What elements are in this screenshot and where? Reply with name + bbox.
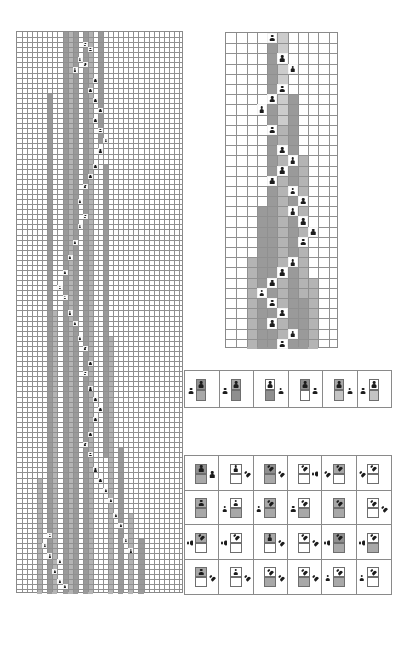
- grid-line-horizontal: [17, 300, 182, 301]
- pawn-icon: [187, 540, 193, 546]
- legend-tile-top: [230, 567, 242, 577]
- pawn-icon: [89, 433, 92, 436]
- legend-side-pawn: [277, 388, 284, 395]
- pawn-icon: [94, 119, 97, 122]
- agent-marker: [128, 548, 133, 553]
- legend-tile-bottom: [333, 543, 345, 553]
- grid-line-horizontal: [17, 442, 182, 443]
- grid-line-horizontal: [17, 361, 182, 362]
- grid-line-horizontal: [17, 310, 182, 311]
- pawn-icon: [89, 362, 92, 365]
- pawn-icon: [198, 465, 204, 471]
- legend-side-pawn: [256, 506, 262, 512]
- pawn-icon: [233, 465, 239, 471]
- grid-line-horizontal: [17, 427, 182, 428]
- legend-tile-bottom: [367, 577, 379, 587]
- pawn-icon: [301, 381, 308, 388]
- grid-canvas: [17, 32, 182, 592]
- grid-line-horizontal: [226, 237, 337, 238]
- pawn-icon: [277, 470, 286, 479]
- grid-line-horizontal: [17, 154, 182, 155]
- grid-line-horizontal: [226, 247, 337, 248]
- legend-tile-bottom: [195, 508, 207, 518]
- agent-marker: [93, 417, 98, 422]
- grid-line-horizontal: [226, 196, 337, 197]
- pawn-icon: [290, 157, 296, 163]
- legend-side-pawn: [209, 471, 215, 477]
- pawn-icon: [242, 574, 251, 583]
- legend-matrix-cell: [288, 491, 322, 526]
- pawn-icon: [290, 259, 296, 265]
- legend-tile-top: [298, 567, 310, 577]
- pawn-icon: [198, 500, 204, 506]
- pawn-icon: [279, 167, 285, 173]
- grid-line-horizontal: [17, 589, 182, 590]
- pawn-icon: [300, 239, 306, 245]
- grid-line-horizontal: [17, 169, 182, 170]
- legend-matrix-cell: [185, 525, 219, 560]
- legend-side-pawn: [278, 471, 284, 477]
- legend-tile-top: [264, 464, 276, 474]
- legend-tile-bottom: [300, 390, 310, 401]
- pawn-icon: [99, 129, 102, 132]
- pawn-icon: [290, 188, 296, 194]
- grid-line-horizontal: [226, 94, 337, 95]
- agent-marker: [98, 148, 103, 153]
- grid-line-horizontal: [17, 437, 182, 438]
- agent-marker: [63, 584, 68, 589]
- legend-strip-panel: [184, 370, 392, 408]
- grid-line-horizontal: [17, 62, 182, 63]
- grid-line-horizontal: [17, 194, 182, 195]
- legend-tile-bottom: [230, 577, 242, 587]
- legend-side-pawn: [346, 388, 353, 395]
- legend-tile-bottom: [298, 577, 310, 587]
- grid-line-horizontal: [226, 64, 337, 65]
- agent-marker: [83, 346, 88, 351]
- grid-line-horizontal: [17, 143, 182, 144]
- grid-line-horizontal: [17, 316, 182, 317]
- pawn-icon: [221, 506, 227, 512]
- legend-tile-bottom: [230, 474, 242, 484]
- grid-line-horizontal: [17, 260, 182, 261]
- agent-marker: [288, 257, 298, 267]
- agent-marker: [83, 184, 88, 189]
- agent-marker: [257, 288, 267, 298]
- grid-line-horizontal: [17, 402, 182, 403]
- legend-tile-top: [334, 379, 344, 390]
- legend-tile-top: [298, 464, 310, 474]
- legend-tile-top: [264, 567, 276, 577]
- grid-line-horizontal: [226, 216, 337, 217]
- legend-tile-top: [369, 379, 379, 390]
- pawn-icon: [94, 418, 97, 421]
- grid-line-horizontal: [17, 432, 182, 433]
- pawn-icon: [300, 533, 309, 542]
- legend-matrix-cell: [185, 560, 219, 595]
- agent-marker: [98, 128, 103, 133]
- agent-marker: [57, 559, 62, 564]
- grid-line-horizontal: [17, 209, 182, 210]
- legend-tile-top: [333, 567, 345, 577]
- agent-marker: [83, 442, 88, 447]
- pawn-icon: [124, 539, 127, 542]
- grid-line-horizontal: [17, 285, 182, 286]
- agent-marker: [277, 53, 287, 63]
- legend-side-pawn: [312, 388, 319, 395]
- pawn-icon: [290, 331, 296, 337]
- pawn-icon: [300, 464, 309, 473]
- legend-matrix-cell: [357, 456, 391, 491]
- grid-line-horizontal: [17, 538, 182, 539]
- grid-line-horizontal: [17, 159, 182, 160]
- pawn-icon: [380, 505, 389, 514]
- agent-marker: [277, 308, 287, 318]
- legend-side-pawn: [324, 471, 330, 477]
- legend-tile-top: [231, 379, 241, 390]
- agent-marker: [78, 336, 83, 341]
- pawn-icon: [208, 574, 217, 583]
- grid-line-horizontal: [17, 326, 182, 327]
- pawn-icon: [94, 79, 97, 82]
- legend-tile-bottom: [298, 474, 310, 484]
- pawn-icon: [311, 574, 320, 583]
- pawn-icon: [197, 533, 206, 542]
- pawn-icon: [290, 66, 296, 72]
- pawn-icon: [312, 471, 318, 477]
